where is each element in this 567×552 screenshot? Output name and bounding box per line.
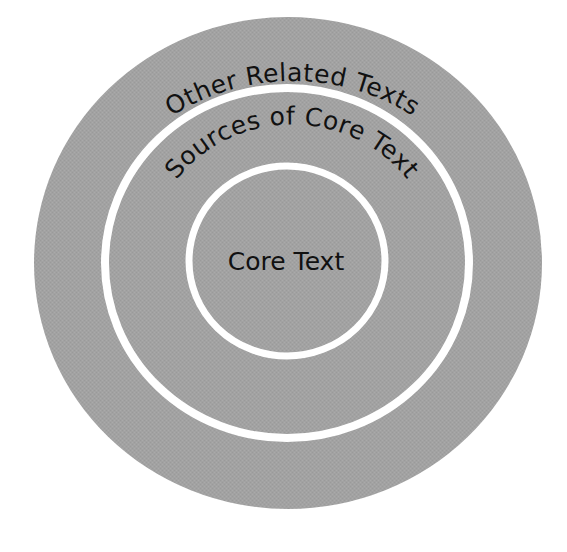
concentric-circles-diagram: Other Related Texts Sources of Core Text… <box>0 0 567 552</box>
core-label: Core Text <box>228 247 345 276</box>
